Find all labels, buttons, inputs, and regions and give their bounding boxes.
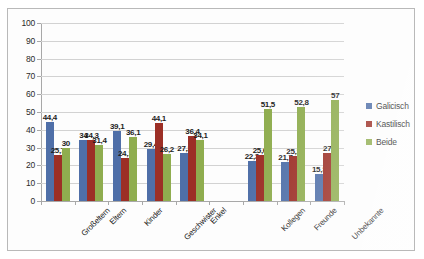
legend-color-swatch bbox=[366, 121, 372, 127]
legend-color-swatch bbox=[366, 139, 372, 145]
bar[interactable]: 31,4 bbox=[95, 145, 103, 201]
bar[interactable]: 57 bbox=[331, 100, 339, 201]
legend-label: Kastilisch bbox=[376, 119, 410, 129]
bar-value-label: 57 bbox=[331, 91, 339, 100]
bar[interactable]: 44,4 bbox=[46, 122, 54, 201]
legend-item[interactable]: Kastilisch bbox=[366, 119, 410, 129]
bar[interactable]: 15,3 bbox=[315, 174, 323, 201]
bar-value-label: 31,4 bbox=[92, 136, 106, 145]
bar-group: 15,32757 bbox=[310, 23, 344, 201]
y-axis-tick-label: 10 bbox=[8, 178, 35, 188]
legend-item[interactable]: Beide bbox=[366, 137, 410, 147]
bar-value-label: 34,1 bbox=[193, 131, 207, 140]
bar[interactable]: 36,4 bbox=[188, 136, 196, 201]
y-axis-tick-label: 30 bbox=[8, 143, 35, 153]
bar-value-label: 27 bbox=[323, 144, 331, 153]
bar[interactable]: 25,7 bbox=[54, 155, 62, 201]
bar-value-label: 36,1 bbox=[126, 128, 140, 137]
bar[interactable]: 36,1 bbox=[129, 137, 137, 201]
bar[interactable]: 30 bbox=[62, 148, 70, 201]
y-axis-tick-label: 70 bbox=[8, 71, 35, 81]
bar[interactable]: 25,2 bbox=[289, 156, 297, 201]
bar-group: 21,725,252,8 bbox=[277, 23, 311, 201]
bar[interactable]: 26,2 bbox=[163, 154, 171, 201]
y-axis-tick-label: 50 bbox=[8, 107, 35, 117]
y-axis-tick-label: 80 bbox=[8, 54, 35, 64]
x-axis-category-label: Großeltern bbox=[79, 206, 111, 238]
chart-legend: GalicischKastilischBeide bbox=[366, 101, 410, 147]
plot-area: 44,425,7303434,331,439,124,136,129,444,1… bbox=[41, 23, 344, 201]
legend-label: Galicisch bbox=[376, 101, 409, 111]
bar-value-label: 26,2 bbox=[160, 145, 174, 154]
y-axis-tick-label: 0 bbox=[8, 196, 35, 206]
y-axis-tick-label: 40 bbox=[8, 125, 35, 135]
legend-color-swatch bbox=[366, 103, 372, 109]
x-axis-category-label: Kinder bbox=[142, 206, 164, 228]
bar[interactable]: 25,6 bbox=[256, 155, 264, 201]
bar-group bbox=[209, 23, 243, 201]
x-axis-tick-mark bbox=[75, 201, 76, 205]
x-axis-tick-mark bbox=[142, 201, 143, 205]
x-axis-line bbox=[41, 201, 345, 202]
bar[interactable]: 39,1 bbox=[113, 131, 121, 201]
bar[interactable]: 22,3 bbox=[248, 161, 256, 201]
bar[interactable]: 51,5 bbox=[264, 109, 272, 201]
legend-item[interactable]: Galicisch bbox=[366, 101, 410, 111]
bar-group: 3434,331,4 bbox=[75, 23, 109, 201]
x-axis-tick-mark bbox=[41, 201, 42, 205]
x-axis-tick-mark bbox=[277, 201, 278, 205]
y-axis-tick-label: 60 bbox=[8, 89, 35, 99]
x-axis-tick-mark bbox=[310, 201, 311, 205]
bar[interactable]: 34,1 bbox=[196, 140, 204, 201]
x-axis-tick-mark bbox=[209, 201, 210, 205]
bar-group: 39,124,136,1 bbox=[108, 23, 142, 201]
bar[interactable]: 29,4 bbox=[147, 149, 155, 201]
legend-label: Beide bbox=[376, 137, 397, 147]
bar[interactable]: 27 bbox=[323, 153, 331, 201]
y-axis-tick-label: 90 bbox=[8, 36, 35, 46]
chart-frame: 1009080706050403020100 44,425,7303434,33… bbox=[7, 8, 415, 251]
bar-group: 44,425,730 bbox=[41, 23, 75, 201]
x-axis-category-label: Unbekannte bbox=[350, 206, 385, 241]
bar-value-label: 30 bbox=[62, 139, 70, 148]
y-axis-tick-label: 100 bbox=[8, 18, 35, 28]
y-axis-tick-label: 20 bbox=[8, 160, 35, 170]
bar[interactable]: 21,7 bbox=[281, 162, 289, 201]
bar[interactable]: 34 bbox=[79, 140, 87, 201]
bar[interactable]: 24,1 bbox=[121, 158, 129, 201]
bar-group: 27,236,434,1 bbox=[176, 23, 210, 201]
bar-value-label: 44,4 bbox=[43, 113, 57, 122]
bar-value-label: 39,1 bbox=[110, 122, 124, 131]
bar-group: 29,444,126,2 bbox=[142, 23, 176, 201]
bar[interactable]: 52,8 bbox=[297, 107, 305, 201]
bar-group: 22,325,651,5 bbox=[243, 23, 277, 201]
bar-value-label: 44,1 bbox=[152, 114, 166, 123]
bar-value-label: 51,5 bbox=[261, 100, 275, 109]
x-axis-tick-mark bbox=[176, 201, 177, 205]
x-axis-category-label: Freunde bbox=[313, 206, 339, 232]
x-axis-tick-mark bbox=[344, 201, 345, 205]
bar-value-label: 52,8 bbox=[294, 98, 308, 107]
x-axis-tick-mark bbox=[108, 201, 109, 205]
x-axis-category-label: Eltern bbox=[108, 206, 128, 226]
bar[interactable]: 34,3 bbox=[87, 140, 95, 201]
x-axis-category-label: Kollegen bbox=[279, 206, 306, 233]
x-axis-tick-mark bbox=[243, 201, 244, 205]
bar[interactable]: 27,2 bbox=[180, 153, 188, 201]
bar[interactable]: 44,1 bbox=[155, 123, 163, 201]
